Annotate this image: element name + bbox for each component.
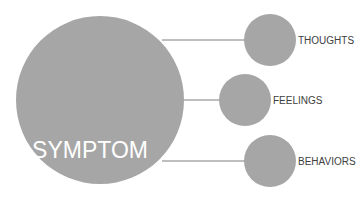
thoughts-label: THOUGHTS: [298, 35, 354, 46]
behaviors-label: BEHAVIORS: [298, 156, 356, 167]
feelings-circle: [219, 74, 271, 126]
feelings-label: FEELINGS: [273, 95, 323, 106]
symptom-diagram: SYMPTOM THOUGHTS FEELINGS BEHAVIORS: [0, 0, 362, 199]
symptom-label: SYMPTOM: [32, 137, 148, 163]
thoughts-circle: [244, 14, 296, 66]
behaviors-circle: [244, 135, 296, 187]
